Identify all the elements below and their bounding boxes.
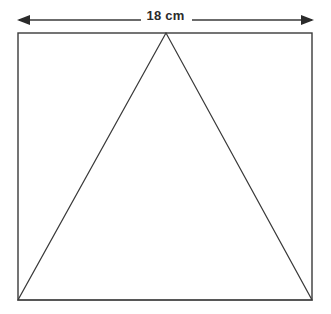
dimension-label: 18 cm <box>0 9 331 23</box>
figure-canvas <box>0 0 331 314</box>
inscribed-triangle-outline <box>18 33 312 300</box>
square-outline <box>18 33 312 300</box>
geometry-figure: 18 cm <box>0 0 331 314</box>
